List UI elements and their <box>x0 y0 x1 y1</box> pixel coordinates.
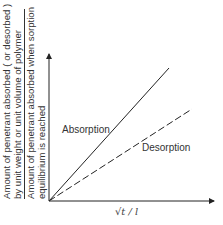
absorption-label: Absorption <box>62 124 110 135</box>
plot-area <box>0 0 223 225</box>
x-axis-label: √t / l <box>115 206 138 217</box>
desorption-label: Desorption <box>142 142 190 153</box>
desorption-line <box>49 109 192 201</box>
